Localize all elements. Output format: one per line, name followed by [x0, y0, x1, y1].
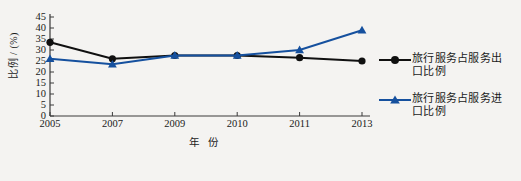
- legend-label: 旅行服务占服务出口比例: [412, 52, 512, 78]
- data-point: [46, 39, 53, 46]
- legend-triangle-marker-icon: [378, 93, 412, 107]
- data-point: [358, 26, 367, 34]
- legend-circle-marker-icon: [378, 53, 412, 67]
- chart-figure: 比例 / (%) 454035302520151050 200520072009…: [0, 0, 521, 181]
- data-point: [358, 57, 365, 64]
- series-1: [46, 39, 365, 65]
- chart-legend: 旅行服务占服务出口比例旅行服务占服务进口比例: [378, 52, 521, 132]
- legend-label: 旅行服务占服务进口比例: [412, 92, 512, 118]
- data-point: [296, 54, 303, 61]
- legend-marker: [391, 56, 399, 64]
- legend-entry: 旅行服务占服务出口比例: [378, 52, 521, 78]
- legend-entry: 旅行服务占服务进口比例: [378, 92, 521, 118]
- series-2: [46, 26, 367, 68]
